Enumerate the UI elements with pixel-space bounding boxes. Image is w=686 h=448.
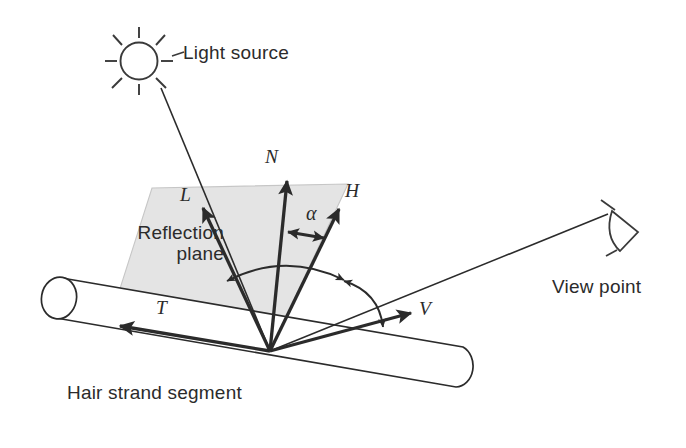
vector-H-label: H: [345, 180, 359, 202]
light-source-label: Light source: [183, 42, 289, 63]
vector-L-label: L: [180, 184, 191, 206]
hair-strand-segment-label: Hair strand segment: [67, 382, 242, 403]
eye-icon: [601, 200, 638, 256]
vector-N-label: N: [265, 146, 278, 168]
angle-arc-H-V: [344, 281, 383, 327]
reflection-plane-label-line1: Reflection: [138, 222, 225, 243]
reflection-plane-label: Reflectionplane: [96, 222, 224, 265]
view-point-label: View point: [552, 276, 641, 297]
vector-V-label: V: [419, 298, 431, 320]
sun-icon: [105, 27, 173, 95]
angle-alpha-label: α: [306, 202, 317, 224]
vector-T-label: T: [156, 297, 167, 319]
reflection-plane-label-line2: plane: [177, 243, 225, 264]
